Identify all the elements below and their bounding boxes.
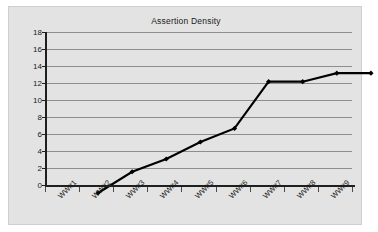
y-tick-label-8: 8 [14, 113, 42, 122]
y-tick-label-2: 2 [14, 164, 42, 173]
x-tick-mark-1 [79, 187, 80, 192]
y-tick-label-4: 4 [14, 147, 42, 156]
gridline-18 [45, 32, 352, 33]
y-tick-mark-6 [42, 134, 45, 135]
y-tick-label-10: 10 [14, 96, 42, 105]
y-tick-mark-4 [42, 151, 45, 152]
data-point-WW#7 [300, 79, 305, 84]
x-tick-mark-0 [45, 187, 46, 192]
chart-title: Assertion Density [9, 16, 363, 26]
y-tick-label-0: 0 [14, 181, 42, 190]
y-tick-mark-10 [42, 100, 45, 101]
data-point-WW#9 [368, 71, 373, 76]
y-tick-mark-0 [42, 185, 45, 186]
y-axis-labels: 024681012141618 [9, 32, 42, 185]
data-point-WW#8 [334, 71, 339, 76]
y-axis-line [45, 32, 47, 186]
y-tick-mark-8 [42, 117, 45, 118]
y-tick-label-16: 16 [14, 45, 42, 54]
x-tick-mark-8 [318, 187, 319, 192]
series-markers [95, 71, 373, 196]
plot-area [45, 32, 352, 185]
x-tick-mark-2 [113, 187, 114, 192]
y-tick-label-12: 12 [14, 79, 42, 88]
y-tick-mark-14 [42, 66, 45, 67]
y-tick-label-14: 14 [14, 62, 42, 71]
series-line-assertion-density [81, 57, 378, 210]
x-tick-mark-4 [181, 187, 182, 192]
x-tick-mark-5 [216, 187, 217, 192]
y-tick-mark-12 [42, 83, 45, 84]
gridline-16 [45, 49, 352, 50]
y-tick-mark-2 [42, 168, 45, 169]
y-tick-mark-18 [42, 32, 45, 33]
y-tick-mark-16 [42, 49, 45, 50]
x-tick-mark-3 [147, 187, 148, 192]
y-tick-label-6: 6 [14, 130, 42, 139]
chart-frame: Assertion Density 024681012141618 WW#1WW… [8, 6, 362, 225]
x-tick-mark-6 [250, 187, 251, 192]
y-tick-label-18: 18 [14, 28, 42, 37]
x-tick-mark-7 [284, 187, 285, 192]
x-tick-mark-9 [352, 187, 353, 192]
